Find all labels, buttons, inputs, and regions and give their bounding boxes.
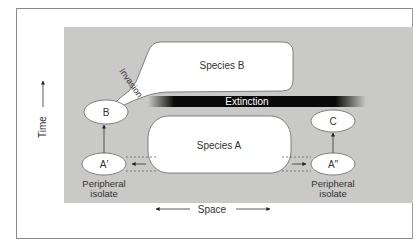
space-axis-label: Space	[198, 204, 227, 215]
node-a-double-prime-label: A″	[328, 159, 339, 170]
diagram-canvas: Extinction Species B Invasion Species A …	[0, 0, 419, 251]
extinction-label: Extinction	[225, 96, 268, 107]
node-b-label: B	[103, 107, 110, 118]
node-c-label: C	[329, 116, 336, 127]
peripheral-isolate-right-line2: isolate	[319, 188, 346, 199]
species-b-label: Species B	[199, 60, 244, 71]
time-axis-label: Time	[37, 116, 48, 138]
peripheral-isolate-left-line2: isolate	[90, 188, 117, 199]
species-a-label: Species A	[197, 140, 242, 151]
node-a-prime-label: A′	[100, 159, 109, 170]
